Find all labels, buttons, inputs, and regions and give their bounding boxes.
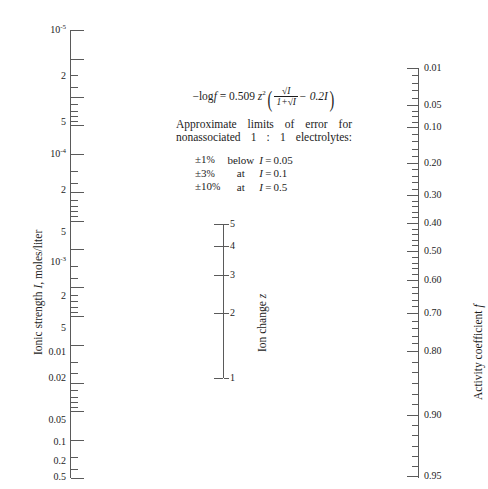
axis-tick [412,257,418,258]
axis-tick [214,246,223,247]
axis-tick [412,263,418,264]
axis-tick [71,390,78,391]
axis-tick [407,163,418,164]
percent-glyph: % [212,181,220,192]
axis-tick-label: 10-5 [50,25,66,35]
axis-tick [71,75,78,76]
axis-tick [412,274,418,275]
axis-tick [407,351,418,352]
axis-tick [412,245,418,246]
condition-variable: I [259,154,263,166]
ionic-strength-axis-title: Ionic strength I, moles/liter [32,230,44,355]
axis-tick-label: 0.5 [54,472,67,482]
axis-tick-label: 3 [230,270,235,280]
ion-charge-axis-line [223,224,224,378]
axis-tick [412,176,418,177]
axis-tick-label: 0.1 [54,437,67,447]
axis-tick [407,68,418,69]
axis-tick [412,217,418,218]
axis-title-text: Ion change [256,301,268,352]
axis-tick [71,301,78,302]
axis-tick [407,280,418,281]
nomogram-figure: 10-52510-42510-3250.010.020.050.10.20.5 … [0,0,488,489]
axis-tick [71,266,78,267]
axis-tick-label: 0.05 [49,415,67,425]
axis-tick [412,122,418,123]
axis-tick [71,402,78,403]
error-limits-table: ±1%belowI = 0.05±3%atI = 0.1±10%atI = 0.… [195,153,297,194]
axis-tick [71,200,78,201]
error-relation: below [224,153,259,167]
axis-tick-label: 0.20 [424,158,442,168]
formula-charge-exponent: 2 [262,89,266,97]
axis-tick-label: 0.02 [49,373,67,383]
axis-tick-label: 5 [61,117,66,127]
axis-tick [71,206,78,207]
error-relation: at [224,180,259,194]
axis-tick [412,300,418,301]
axis-tick [71,221,84,222]
axis-tick [412,141,418,142]
axis-tick [407,313,418,314]
axis-tick [412,240,418,241]
axis-tick [71,278,78,279]
axis-tick [214,313,223,314]
error-relation: at [224,167,259,181]
error-condition: I = 0.1 [259,167,297,181]
axis-tick [224,275,229,276]
axis-tick [71,440,84,441]
axis-tick-label: 5 [61,227,66,237]
error-limits-note: Approximate limits of error for nonassoc… [176,118,352,144]
tick-label-exponent: -3 [60,255,66,263]
error-condition: I = 0.05 [259,153,297,167]
axis-tick [412,201,418,202]
axis-tick [412,321,418,322]
axis-tick-label: 0.60 [424,275,442,285]
activity-coefficient-axis-title: Activity coefficient f [472,304,484,400]
axis-tick [412,394,418,395]
axis-tick-label: 0.01 [49,347,67,357]
axis-tick [412,98,418,99]
axis-tick [412,336,418,337]
percent-glyph: % [207,154,215,165]
close-paren-glyph: ) [329,95,334,105]
axis-tick [71,457,78,458]
axis-tick [412,149,418,150]
axis-title-text: Activity coefficient [472,310,484,400]
axis-tick-label: 0.01 [424,63,442,73]
axis-tick [412,169,418,170]
formula-minus-term: − 0.2I [299,90,328,102]
axis-tick-label: 0.90 [424,410,442,420]
axis-tick [412,372,418,373]
condition-variable: I [259,181,263,193]
axis-tick [71,59,84,60]
axis-tick [407,127,418,128]
axis-tick-label: 0.50 [424,246,442,256]
axis-title-text: Ionic strength [32,291,44,355]
percent-glyph: % [207,168,215,179]
axis-tick-label: 1 [230,373,235,383]
error-tolerance: ±10% [195,180,224,194]
error-limits-table-body: ±1%belowI = 0.05±3%atI = 0.1±10%atI = 0.… [195,153,297,194]
axis-tick [214,224,223,225]
axis-tick [407,223,418,224]
ion-charge-axis-title: Ion change z [256,294,268,352]
axis-tick [412,134,418,135]
axis-tick [407,415,418,416]
activity-coefficient-axis-line [418,68,419,478]
formula-equals: = [220,90,227,102]
axis-tick [412,206,418,207]
axis-tick [412,111,418,112]
error-tolerance: ±1% [195,153,224,167]
axis-tick [412,156,418,157]
axis-tick [412,435,418,436]
formula-numerator: √I [274,86,298,96]
error-tolerance: ±3% [195,167,224,181]
axis-tick [71,121,78,122]
axis-tick-label: 2 [61,291,66,301]
axis-tick [224,313,229,314]
axis-tick [71,469,78,470]
note-line-2: nonassociated 1 : 1 electrolytes: [176,131,352,144]
axis-tick [71,295,78,296]
open-paren-glyph: ( [267,95,272,105]
